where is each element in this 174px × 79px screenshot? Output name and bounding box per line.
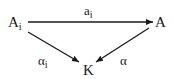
edge-top-label-sub: i xyxy=(90,9,93,20)
edge-right-label-base: α xyxy=(120,53,127,68)
node-target: A xyxy=(155,15,166,30)
edge-left-label-base: α xyxy=(38,53,45,68)
edge-left-label: αi xyxy=(38,53,48,69)
node-target-base: A xyxy=(155,14,166,30)
edge-top-label: ai xyxy=(84,3,93,19)
arrow-left xyxy=(28,32,79,62)
node-source-sub: i xyxy=(19,21,22,32)
node-bottom-base: K xyxy=(83,62,94,78)
edge-left-label-sub: i xyxy=(45,59,48,70)
edge-right-label: α xyxy=(120,53,127,68)
edge-top-label-base: a xyxy=(84,3,90,18)
node-bottom: K xyxy=(83,63,94,78)
node-source-base: A xyxy=(8,14,19,30)
node-source: Ai xyxy=(8,15,22,31)
